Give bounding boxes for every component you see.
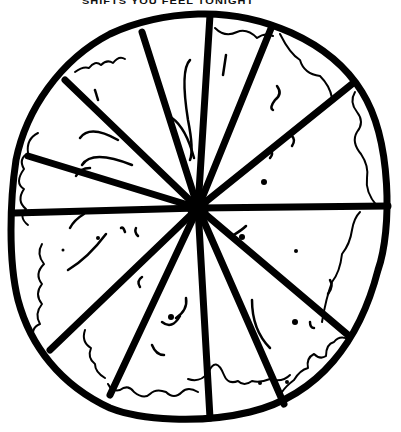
- pizza-center: [187, 197, 209, 219]
- pizza-illustration: [0, 0, 401, 432]
